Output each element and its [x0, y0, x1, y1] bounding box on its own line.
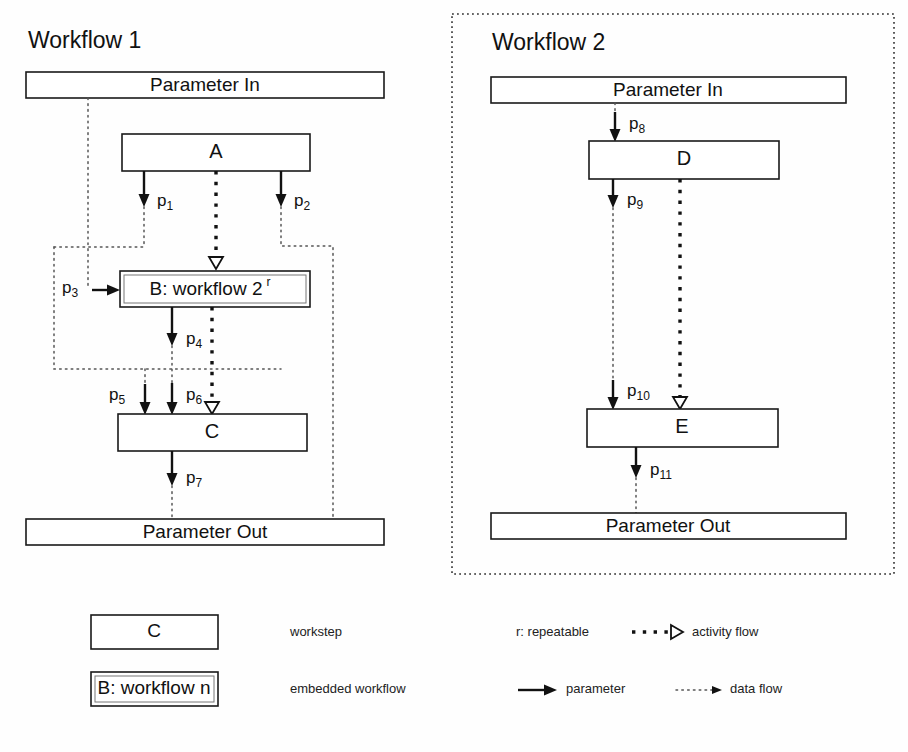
param-p7-arrowhead: [167, 473, 178, 486]
param-p6-label: p6: [186, 385, 202, 407]
wf1-dataflow-p2-to-paramout: [281, 207, 333, 519]
param-p5-arrowhead: [140, 402, 151, 415]
embedded-workflow-b-label: B: workflow 2r: [150, 275, 271, 299]
legend-embedded-text: embedded workflow: [290, 681, 406, 696]
param-p1-arrowhead: [139, 194, 150, 207]
legend-workstep-text: workstep: [289, 624, 342, 639]
workstep-a-label: A: [209, 140, 223, 162]
legend-activityflow-sample-arrowhead: [671, 625, 683, 639]
workstep-e-label: E: [675, 415, 688, 437]
param-p9-label: p9: [627, 190, 643, 212]
legend-activityflow-text: activity flow: [692, 624, 759, 639]
param-p10-arrowhead: [608, 397, 619, 410]
wf2-parameter-in-label: Parameter In: [613, 79, 723, 100]
wf2-parameter-out-label: Parameter Out: [606, 515, 731, 536]
diagram-canvas: Workflow 1 Parameter In A p1 p2 B: workf…: [0, 0, 908, 752]
param-p11-label: p11: [650, 460, 672, 482]
param-p11-arrowhead: [631, 465, 642, 478]
workstep-c-label: C: [205, 420, 219, 442]
workstep-d-label: D: [677, 147, 691, 169]
legend-repeatable-text: r: repeatable: [516, 624, 589, 639]
param-p3-label: p3: [62, 278, 78, 300]
param-p8-label: p8: [629, 114, 645, 136]
activityflow-d-to-e-arrowhead: [673, 397, 687, 409]
wf1-dataflow-loop-left: [54, 247, 281, 369]
wf1-parameter-in-label: Parameter In: [150, 74, 260, 95]
param-p4-label: p4: [186, 329, 202, 351]
wf1-parameter-out-label: Parameter Out: [143, 521, 268, 542]
param-p4-arrowhead: [167, 333, 178, 346]
workflow-diagram-svg: Workflow 1 Parameter In A p1 p2 B: workf…: [0, 0, 908, 752]
param-p8-arrowhead: [610, 129, 621, 142]
param-p2-arrowhead: [276, 194, 287, 207]
activityflow-a-to-b-arrowhead: [209, 257, 223, 269]
param-p2-label: p2: [294, 191, 310, 213]
legend-workstep-sample-label: C: [147, 620, 161, 641]
param-p3-arrowhead: [107, 285, 120, 296]
param-p7-label: p7: [186, 468, 202, 490]
legend-embedded-sample-label: B: workflow n: [98, 677, 211, 698]
param-p5-label: p5: [109, 385, 125, 407]
param-p1-label: p1: [157, 191, 173, 213]
legend-parameter-sample-arrowhead: [544, 685, 557, 696]
workflow-2-title: Workflow 2: [492, 29, 605, 55]
legend-parameter-text: parameter: [566, 681, 626, 696]
activityflow-b-to-c-arrowhead: [205, 402, 219, 414]
legend-dataflow-sample-arrowhead: [712, 686, 722, 694]
param-p10-label: p10: [627, 381, 650, 403]
workflow-1-title: Workflow 1: [28, 27, 141, 53]
param-p9-arrowhead: [608, 195, 619, 208]
legend-dataflow-text: data flow: [730, 681, 783, 696]
param-p6-arrowhead: [167, 402, 178, 415]
